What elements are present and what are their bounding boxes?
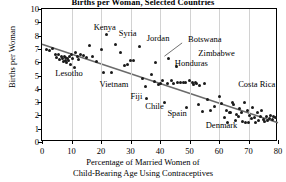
data-point — [253, 116, 256, 119]
x-axis-tick-label: 10 — [60, 147, 84, 156]
chart-title: Births per Woman, Selected Countries — [0, 0, 286, 7]
x-axis-label-line1: Percentage of Married Women of — [0, 157, 286, 168]
data-point — [70, 53, 73, 56]
data-point — [213, 105, 216, 108]
data-point — [110, 71, 113, 74]
data-point — [159, 82, 162, 85]
data-point — [260, 109, 263, 112]
country-label-lesotho: Lesotho — [55, 69, 82, 78]
data-point — [48, 49, 51, 52]
y-axis-tick-label: 10 — [25, 5, 39, 13]
data-point — [247, 121, 250, 124]
x-axis-tick-label: 20 — [89, 147, 113, 156]
country-label-denmark: Denmark — [206, 121, 238, 130]
data-point — [105, 33, 108, 36]
data-point — [274, 116, 277, 119]
country-label-fiji: Fiji — [131, 92, 143, 101]
data-point — [218, 95, 221, 98]
country-label-spain: Spain — [167, 109, 186, 118]
country-label-costa-rica: Costa Rica — [238, 80, 275, 89]
y-axis-tick-label: 0 — [25, 138, 39, 146]
x-axis-tick — [72, 140, 73, 144]
x-axis-tick-label: 70 — [237, 147, 261, 156]
x-axis-tick-label: 40 — [148, 147, 172, 156]
data-point — [74, 51, 77, 54]
data-point — [243, 101, 246, 104]
data-point — [153, 80, 156, 83]
x-axis-tick — [249, 140, 250, 144]
data-point — [232, 103, 235, 106]
country-label-kenya: Kenya — [94, 23, 116, 32]
data-point — [223, 116, 226, 119]
y-axis-tick-label: 5 — [25, 72, 39, 80]
x-axis-tick-label: 60 — [207, 147, 231, 156]
data-point — [203, 82, 206, 85]
data-point — [161, 79, 164, 82]
data-point — [141, 77, 144, 80]
data-point — [102, 71, 105, 74]
country-label-chile: Chile — [145, 102, 163, 111]
data-point — [238, 107, 241, 110]
x-axis-tick — [101, 140, 102, 144]
data-point — [237, 115, 240, 118]
data-point — [206, 98, 209, 101]
country-label-jordan: Jordan — [147, 34, 170, 43]
x-axis-tick — [278, 140, 279, 144]
data-point — [100, 48, 103, 51]
data-point — [271, 118, 274, 121]
x-axis-tick-label: 50 — [178, 147, 202, 156]
data-point — [71, 57, 74, 60]
y-axis-tick-label: 4 — [25, 85, 39, 93]
data-point — [229, 111, 232, 114]
x-axis-tick — [190, 140, 191, 144]
data-point — [69, 63, 72, 66]
x-gridline — [160, 9, 161, 140]
x-axis-tick-label: 30 — [119, 147, 143, 156]
y-axis-tick-label: 3 — [25, 98, 39, 106]
data-point — [77, 58, 80, 61]
data-point — [201, 110, 204, 113]
data-point — [246, 109, 249, 112]
x-gridline — [190, 9, 191, 140]
data-point — [198, 84, 201, 87]
data-point — [166, 82, 169, 85]
data-point — [209, 109, 212, 112]
x-axis-tick — [160, 140, 161, 144]
data-point — [256, 111, 259, 114]
data-point — [67, 59, 70, 62]
x-axis-tick — [131, 140, 132, 144]
scatter-chart-figure: Births per Woman, Selected Countries Bir… — [0, 0, 286, 182]
data-point — [85, 56, 88, 59]
y-axis-tick-label: 2 — [25, 111, 39, 119]
data-point — [114, 43, 117, 46]
country-label-zimbabwe: Zimbabwe — [198, 49, 234, 58]
data-point — [266, 119, 269, 122]
y-axis-tick-label: 8 — [25, 32, 39, 40]
y-axis-tick-label: 7 — [25, 45, 39, 53]
data-point — [119, 51, 122, 54]
x-axis-tick-label: 0 — [30, 147, 54, 156]
x-axis-tick — [219, 140, 220, 144]
x-axis-label: Percentage of Married Women of Child-Bea… — [0, 157, 286, 179]
data-point — [51, 47, 54, 50]
country-label-honduras: Honduras — [175, 59, 208, 68]
country-label-botswana: Botswana — [188, 35, 222, 44]
data-point — [197, 103, 200, 106]
data-point — [220, 102, 223, 105]
data-point — [240, 111, 243, 114]
country-label-syria: Syria — [119, 29, 137, 38]
annotation-leader-line — [164, 43, 182, 56]
data-point — [184, 81, 187, 84]
data-point — [95, 60, 98, 63]
x-axis-tick — [42, 140, 43, 144]
y-axis-label: Births per Woman — [7, 7, 17, 107]
data-point — [132, 59, 135, 62]
data-point — [138, 45, 141, 48]
data-point — [154, 61, 157, 64]
x-axis-tick-label: 80 — [266, 147, 286, 156]
data-point — [172, 82, 175, 85]
y-axis-tick-label: 1 — [25, 125, 39, 133]
data-point — [126, 63, 129, 66]
data-point — [144, 85, 147, 88]
data-point — [145, 97, 148, 100]
